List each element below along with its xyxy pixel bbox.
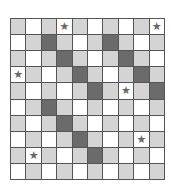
board-cell[interactable] — [57, 51, 71, 66]
board-cell[interactable] — [57, 148, 71, 163]
board-cell[interactable] — [119, 19, 133, 34]
board-cell[interactable] — [134, 51, 148, 66]
board-cell[interactable] — [42, 132, 56, 147]
board-cell[interactable]: ★ — [57, 19, 71, 34]
board-cell[interactable] — [73, 164, 87, 179]
board-cell[interactable] — [119, 35, 133, 50]
board-cell[interactable] — [57, 35, 71, 50]
board-cell[interactable] — [88, 51, 102, 66]
board-cell[interactable] — [103, 67, 117, 82]
board-cell[interactable] — [26, 132, 40, 147]
board-cell[interactable] — [150, 132, 164, 147]
board-cell[interactable] — [42, 67, 56, 82]
board-cell[interactable] — [119, 132, 133, 147]
board-cell[interactable] — [42, 164, 56, 179]
board-cell[interactable] — [103, 148, 117, 163]
board-cell[interactable] — [42, 51, 56, 66]
board-cell[interactable] — [150, 35, 164, 50]
board-cell[interactable]: ★ — [150, 19, 164, 34]
board-cell[interactable] — [134, 35, 148, 50]
board-cell[interactable] — [26, 116, 40, 131]
board-cell[interactable] — [119, 100, 133, 115]
board-cell[interactable] — [134, 148, 148, 163]
board-cell[interactable] — [88, 164, 102, 179]
board-cell[interactable]: ★ — [11, 67, 25, 82]
board-cell[interactable] — [103, 164, 117, 179]
board-cell[interactable]: ★ — [26, 148, 40, 163]
board-cell[interactable] — [26, 51, 40, 66]
board-cell[interactable] — [57, 83, 71, 98]
board-cell[interactable] — [11, 83, 25, 98]
board-cell[interactable] — [73, 35, 87, 50]
board-cell[interactable] — [73, 51, 87, 66]
board-cell[interactable] — [73, 100, 87, 115]
board-cell[interactable] — [88, 35, 102, 50]
board-cell[interactable] — [103, 83, 117, 98]
board-cell[interactable] — [73, 132, 87, 147]
board-cell[interactable] — [57, 132, 71, 147]
board-cell[interactable] — [11, 19, 25, 34]
board-cell[interactable] — [11, 116, 25, 131]
board-cell[interactable] — [134, 164, 148, 179]
board-cell[interactable] — [26, 35, 40, 50]
board-cell[interactable] — [150, 148, 164, 163]
board-cell[interactable] — [150, 83, 164, 98]
board-cell[interactable] — [42, 148, 56, 163]
board-cell[interactable] — [103, 51, 117, 66]
board-cell[interactable] — [103, 100, 117, 115]
board-cell[interactable] — [57, 116, 71, 131]
board-cell[interactable] — [150, 67, 164, 82]
board-cell[interactable] — [57, 164, 71, 179]
board-cell[interactable] — [57, 67, 71, 82]
board-cell[interactable] — [134, 19, 148, 34]
board-cell[interactable] — [26, 19, 40, 34]
board-cell[interactable] — [103, 19, 117, 34]
board-cell[interactable] — [42, 116, 56, 131]
board-cell[interactable] — [26, 164, 40, 179]
board-cell[interactable] — [103, 116, 117, 131]
board-cell[interactable] — [11, 35, 25, 50]
board-cell[interactable] — [134, 67, 148, 82]
board-cell[interactable] — [103, 35, 117, 50]
board-cell[interactable] — [88, 83, 102, 98]
board-cell[interactable] — [73, 83, 87, 98]
board-cell[interactable] — [88, 132, 102, 147]
board-cell[interactable] — [150, 51, 164, 66]
board-cell[interactable] — [88, 148, 102, 163]
board-cell[interactable] — [11, 51, 25, 66]
board-cell[interactable] — [26, 67, 40, 82]
board-cell[interactable] — [88, 67, 102, 82]
board-cell[interactable] — [73, 67, 87, 82]
board-cell[interactable] — [11, 132, 25, 147]
board-cell[interactable] — [119, 51, 133, 66]
board-cell[interactable] — [150, 116, 164, 131]
board-cell[interactable] — [11, 164, 25, 179]
board-cell[interactable]: ★ — [119, 83, 133, 98]
board-cell[interactable] — [134, 116, 148, 131]
board-cell[interactable] — [119, 148, 133, 163]
board-cell[interactable] — [42, 100, 56, 115]
board-cell[interactable] — [26, 83, 40, 98]
board-cell[interactable] — [119, 164, 133, 179]
board-cell[interactable] — [150, 100, 164, 115]
board-cell[interactable] — [88, 116, 102, 131]
board-cell[interactable] — [134, 83, 148, 98]
board-cell[interactable] — [150, 164, 164, 179]
board-cell[interactable] — [11, 100, 25, 115]
board-cell[interactable] — [42, 19, 56, 34]
board-cell[interactable] — [42, 83, 56, 98]
board-cell[interactable] — [42, 35, 56, 50]
board-cell[interactable]: ★ — [134, 132, 148, 147]
board-cell[interactable] — [119, 67, 133, 82]
board-cell[interactable] — [73, 148, 87, 163]
board-cell[interactable] — [11, 148, 25, 163]
board-cell[interactable] — [57, 100, 71, 115]
board-cell[interactable] — [88, 100, 102, 115]
board-cell[interactable] — [73, 116, 87, 131]
board-cell[interactable] — [119, 116, 133, 131]
board-cell[interactable] — [88, 19, 102, 34]
board-cell[interactable] — [103, 132, 117, 147]
board-cell[interactable] — [26, 100, 40, 115]
board-cell[interactable] — [73, 19, 87, 34]
board-cell[interactable] — [134, 100, 148, 115]
